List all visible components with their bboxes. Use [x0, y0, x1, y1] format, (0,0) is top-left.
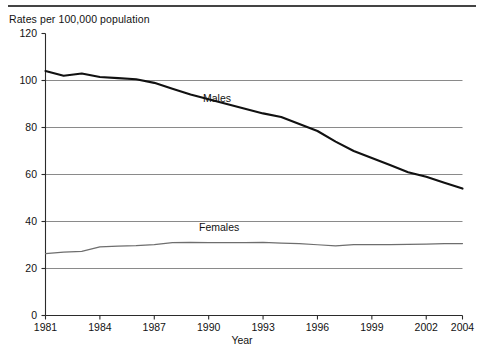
x-tick-label: 1984	[78, 322, 122, 333]
y-tick-label: 20	[3, 263, 37, 274]
x-tick-label: 1990	[187, 322, 231, 333]
series-label-females: Females	[199, 221, 239, 233]
x-tick-label: 1993	[241, 322, 285, 333]
x-tick-label: 1996	[295, 322, 339, 333]
y-tick-label: 120	[3, 28, 37, 39]
y-tick-label: 60	[3, 169, 37, 180]
y-tick-label: 0	[3, 310, 37, 321]
y-tick-label: 80	[3, 122, 37, 133]
y-tick-label: 40	[3, 216, 37, 227]
x-tick-label: 1981	[24, 322, 68, 333]
series-line-males	[46, 71, 463, 189]
plot-area	[0, 0, 484, 356]
x-tick-label: 1987	[132, 322, 176, 333]
x-tick-label: 2004	[441, 322, 484, 333]
series-label-males: Males	[203, 92, 231, 104]
series-line-females	[46, 242, 463, 253]
x-axis-title: Year	[0, 334, 484, 346]
x-tick-label: 1999	[350, 322, 394, 333]
chart-figure: Rates per 100,000 population 02040608010…	[0, 0, 484, 356]
y-tick-label: 100	[3, 75, 37, 86]
